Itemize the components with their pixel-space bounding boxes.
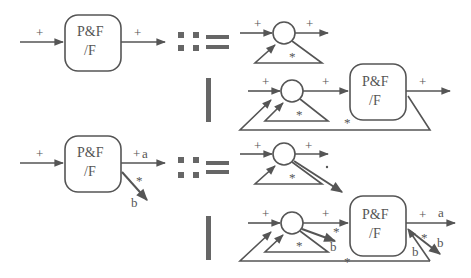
rule2-alt2-input-label: +: [262, 206, 269, 221]
rule1-alt2: + + P&F /F + * *: [240, 64, 450, 130]
rule2-lhs-output-port: a: [142, 146, 148, 161]
rule2-lhs-box-line1: P&F: [77, 145, 104, 160]
rule2-alt1-output-label: +: [305, 138, 312, 153]
rule1-lhs-input-label: +: [36, 25, 43, 40]
rule1-define-symbol: [178, 32, 229, 51]
rule1-alt2-mid-label: +: [322, 74, 329, 89]
rule2-alt2-output-label: +: [419, 207, 426, 222]
rule1-alt2-box-line1: P&F: [362, 74, 389, 89]
rule2-lhs-branch-label: *: [136, 173, 143, 188]
rule2-alt2-circle-branch-port: b: [330, 239, 337, 254]
rule2-alt2-box-branch-label: *: [421, 230, 428, 245]
rule2-alt2-circle: [281, 212, 303, 234]
rule1-alt1-output-label: +: [306, 16, 313, 31]
rule2-alt2-outer-loop-port: b: [412, 244, 419, 259]
rule2-alt2-inner-loop-label: *: [296, 238, 303, 253]
rule1-alt1-input-label: +: [254, 16, 261, 31]
rule1-alt2-output-label: +: [419, 74, 426, 89]
rule1-lhs-output-label: +: [134, 25, 141, 40]
rule1-alt1-loop-label: *: [289, 49, 296, 64]
rule2-alt2-outer-loop-label: *: [344, 254, 351, 269]
rule2-lhs: + P&F /F + a * b: [20, 136, 165, 210]
rule2-alt2-output-port: a: [438, 205, 444, 220]
rule2-lhs-output-label: +: [133, 146, 140, 161]
rule2-alt2-box-line2: /F: [369, 226, 381, 241]
rule1-alt2-inner-loop-label: *: [296, 107, 303, 122]
rule1-alt2-outer-loop-label: *: [344, 115, 351, 130]
rule2-define-symbol: [178, 157, 229, 178]
rule2-alt2-mid-label: +: [322, 206, 329, 221]
rule1-alt2-input-label: +: [262, 74, 269, 89]
rule2-lhs-input-label: +: [36, 146, 43, 161]
rule2-alt1: + + *: [240, 138, 342, 192]
rule2-alt2-box-branch-port: b: [437, 235, 444, 250]
rule1-lhs: + P&F /F +: [20, 15, 165, 71]
rule2-alt2: + + * b P&F /F + a * b * * b: [240, 196, 455, 269]
grammar-diagram: + P&F /F + + + * + + P&F /F +: [0, 0, 471, 278]
rule2-lhs-box-line2: /F: [84, 164, 96, 179]
rule1-alt1-circle: [273, 22, 295, 44]
rule2-alt1-circle: [273, 143, 295, 165]
rule2-alt-separator: [206, 216, 211, 260]
rule2-alt1-branch-arrow: [294, 161, 342, 192]
rule2-alt2-circle-branch-label: *: [333, 224, 340, 239]
rule1-alt2-pf-box: [350, 64, 406, 120]
rule1-alt1: + + *: [240, 16, 328, 64]
rule1-alt2-circle: [281, 80, 303, 102]
rule1-alt-separator: [206, 78, 211, 122]
rule2-lhs-branch-port: b: [131, 195, 138, 210]
rule2-alt1-loop-label: *: [289, 170, 296, 185]
rule1-lhs-box-line1: P&F: [77, 24, 104, 39]
rule2-alt1-input-label: +: [254, 138, 261, 153]
rule1-alt2-box-line2: /F: [369, 93, 381, 108]
rule2-alt2-box-line1: P&F: [362, 207, 389, 222]
rule1-lhs-box-line2: /F: [84, 43, 96, 58]
